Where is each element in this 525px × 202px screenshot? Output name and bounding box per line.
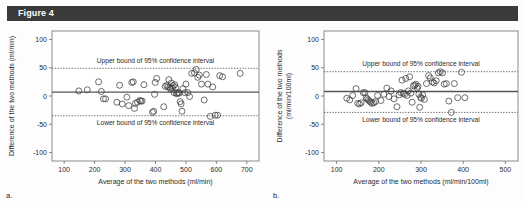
panel-letter-b: b. <box>273 191 279 200</box>
plot-frame <box>52 31 259 161</box>
y-axis-title: Difference of the two methods (ml/min) <box>8 36 16 156</box>
x-tick-label: 200 <box>373 166 385 173</box>
y-tick-label: 100 <box>307 36 319 43</box>
annotation-label: Lower bound of 95% confidence interval <box>97 119 215 126</box>
x-tick-label: 300 <box>119 166 131 173</box>
y-tick-label: 0 <box>43 93 47 100</box>
y-tick-label: 50 <box>39 64 47 71</box>
figure-title-bar: Figure 4 <box>7 6 518 21</box>
x-tick-label: 500 <box>500 166 512 173</box>
x-tick-label: 100 <box>58 166 70 173</box>
x-tick-label: 100 <box>331 166 343 173</box>
x-tick-label: 600 <box>211 166 223 173</box>
y-axis-title: Difference of the two methods <box>276 49 283 142</box>
y-tick-label: -50 <box>309 121 319 128</box>
bland-altman-plot-b: 100200300400500-100-50050100Average of t… <box>268 21 525 202</box>
x-tick-label: 700 <box>241 166 253 173</box>
y-tick-label: -50 <box>37 121 47 128</box>
x-tick-label: 500 <box>180 166 192 173</box>
y-tick-label: -100 <box>305 149 319 156</box>
x-tick-label: 300 <box>415 166 427 173</box>
bland-altman-plot-a: 100200300400500600700-100-50050100Averag… <box>0 21 268 202</box>
y-axis-title: (ml/min/100ml) <box>285 73 293 119</box>
chart-panel-a: 100200300400500600700-100-50050100Averag… <box>0 21 268 202</box>
figure-root: Figure 4 100200300400500600700-100-50050… <box>0 0 525 202</box>
panel-letter-a: a. <box>6 191 12 200</box>
x-axis-title: Average of the two methods (ml/min) <box>98 178 212 186</box>
x-tick-label: 400 <box>150 166 162 173</box>
figure-label: Figure 4 <box>18 8 54 19</box>
annotation-label: Upper bound of 95% confidence interval <box>362 60 480 68</box>
chart-panel-b: 100200300400500-100-50050100Average of t… <box>268 21 525 202</box>
y-tick-label: 100 <box>35 36 47 43</box>
y-tick-label: 50 <box>311 64 319 71</box>
annotation-label: Upper bound of 95% confidence interval <box>97 57 215 65</box>
y-tick-label: 0 <box>315 93 319 100</box>
x-tick-label: 200 <box>89 166 101 173</box>
x-tick-label: 400 <box>457 166 469 173</box>
annotation-label: Lower bound of 95% confidence interval <box>362 116 480 123</box>
x-axis-title: Average of the two methods (ml/min/100ml… <box>353 178 488 186</box>
y-tick-label: -100 <box>33 149 47 156</box>
